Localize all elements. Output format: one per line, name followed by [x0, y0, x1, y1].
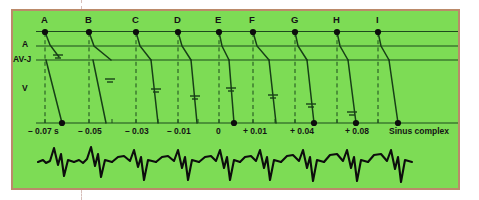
- block-mark-B: [105, 79, 115, 82]
- atrial-dot-G: [292, 29, 298, 35]
- atrial-dot-E: [216, 29, 222, 35]
- ecg-beat: [324, 150, 368, 181]
- atrial-dot-B: [86, 29, 92, 35]
- ecg-beat: [281, 150, 324, 181]
- beat-letter-E: E: [215, 15, 221, 25]
- time-tick-label-zero: 0: [216, 127, 221, 136]
- conduction-path-F-v: [269, 60, 276, 123]
- ecg-rhythm-strip: [38, 147, 412, 182]
- conduction-path-A: [45, 32, 59, 57]
- ecg-beat: [368, 150, 412, 182]
- atrial-dot-D: [175, 29, 181, 35]
- ecg-beat: [156, 150, 199, 180]
- ecg-beat: [112, 150, 156, 180]
- time-tick-label-minus-0-05: – 0.05: [78, 127, 102, 136]
- block-mark-C: [151, 89, 161, 92]
- tier-label-atrial: A: [22, 40, 28, 49]
- beat-letter-C: C: [132, 15, 139, 25]
- tier-lines: [36, 32, 458, 124]
- ventricular-dot-E: [231, 120, 237, 126]
- ecg-beat: [199, 150, 240, 180]
- block-mark-H: [306, 104, 316, 107]
- beat-letter-A: A: [41, 15, 48, 25]
- beat-letter-G: G: [291, 15, 298, 25]
- beat-letter-F: F: [249, 15, 255, 25]
- diagram-vector-layer: [0, 0, 479, 200]
- ladder-diagram-figure: A AV-J V A B C D E F G H I – 0.07 s – 0.…: [0, 0, 479, 200]
- atrial-dot-C: [133, 29, 139, 35]
- atrial-dot-H: [334, 29, 340, 35]
- time-tick-label-plus-0-04: + 0.04: [290, 127, 314, 136]
- tier-label-ventricular: V: [22, 84, 28, 93]
- sinus-complex-annotation: Sinus complex: [389, 127, 449, 136]
- ecg-beat: [38, 148, 74, 176]
- conduction-path-I-v: [389, 60, 398, 123]
- time-tick-label-minus-0-07: – 0.07 s: [28, 127, 59, 136]
- atrial-dot-A: [42, 29, 48, 35]
- conduction-path-D-v: [191, 60, 197, 123]
- time-tick-label-plus-0-08: + 0.08: [345, 127, 369, 136]
- ecg-beat: [74, 147, 112, 177]
- beat-letter-H: H: [333, 15, 340, 25]
- conduction-path-B-v: [93, 60, 106, 123]
- time-tick-label-minus-0-03: – 0.03: [125, 127, 149, 136]
- atrial-dot-I: [375, 29, 381, 35]
- ventricular-dot-A: [59, 120, 65, 126]
- time-tick-label-plus-0-01: + 0.01: [243, 127, 267, 136]
- beat-letter-D: D: [174, 15, 181, 25]
- time-tick-label-minus-0-01: – 0.01: [167, 127, 191, 136]
- beat-letter-I: I: [376, 15, 379, 25]
- tier-label-av-junction: AV-J: [13, 55, 31, 64]
- conduction-path-G-v: [307, 60, 314, 123]
- conduction-path-A-v: [46, 60, 62, 123]
- atrial-dot-F: [250, 29, 256, 35]
- ecg-beat: [240, 150, 281, 180]
- conduction-path-H-v: [348, 60, 356, 123]
- beat-letter-B: B: [85, 15, 92, 25]
- time-axis-ticks: [45, 119, 378, 123]
